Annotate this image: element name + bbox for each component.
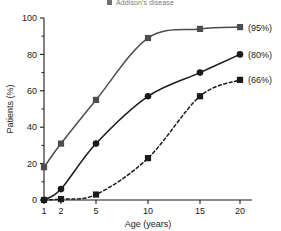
x-tick-label: 10 [143,206,153,216]
data-point-marker [197,69,204,76]
data-point-marker [93,140,100,147]
y-axis-ticks: 020406080100 [22,13,44,205]
chart-series [41,77,243,203]
data-point-marker [145,155,151,161]
y-tick-label: 80 [27,50,37,60]
chart-series-layer [41,24,244,203]
data-point-marker [41,164,47,170]
data-point-marker [237,51,244,58]
series-end-annotation: (80%) [248,50,272,60]
chart-figure: Addison's disease 020406080100 125101520… [0,0,281,231]
y-tick-label: 20 [27,159,37,169]
data-point-marker [58,140,64,146]
data-point-marker [197,26,203,32]
series-line [44,27,240,167]
chart-series [41,51,244,203]
series-end-annotation: (95%) [248,23,272,33]
y-axis-title: Patients (%) [5,84,15,133]
data-point-marker [93,97,99,103]
data-point-marker [93,191,99,197]
x-tick-label: 2 [58,206,63,216]
data-point-marker [58,196,64,202]
chart-axes [44,18,252,200]
data-point-marker [41,197,47,203]
series-line [44,80,240,200]
y-tick-label: 60 [27,86,37,96]
series-end-annotation: (66%) [248,75,272,85]
y-tick-label: 40 [27,122,37,132]
data-point-marker [237,77,243,83]
x-axis-title: Age (years) [125,219,172,229]
x-tick-label: 5 [93,206,98,216]
data-point-marker [145,93,152,100]
data-point-marker [197,93,203,99]
x-tick-label: 20 [235,206,245,216]
x-axis-ticks: 125101520 [41,200,245,216]
chart-annotations: (95%)(80%)(66%) [248,23,272,86]
y-tick-label: 100 [22,13,37,23]
data-point-marker [58,186,65,193]
data-point-marker [145,35,151,41]
chart-series [41,24,243,170]
x-tick-label: 15 [195,206,205,216]
x-tick-label: 1 [41,206,46,216]
data-point-marker [237,24,243,30]
y-tick-label: 0 [32,195,37,205]
chart-canvas: 020406080100 125101520 Patients (%) Age … [0,0,281,231]
